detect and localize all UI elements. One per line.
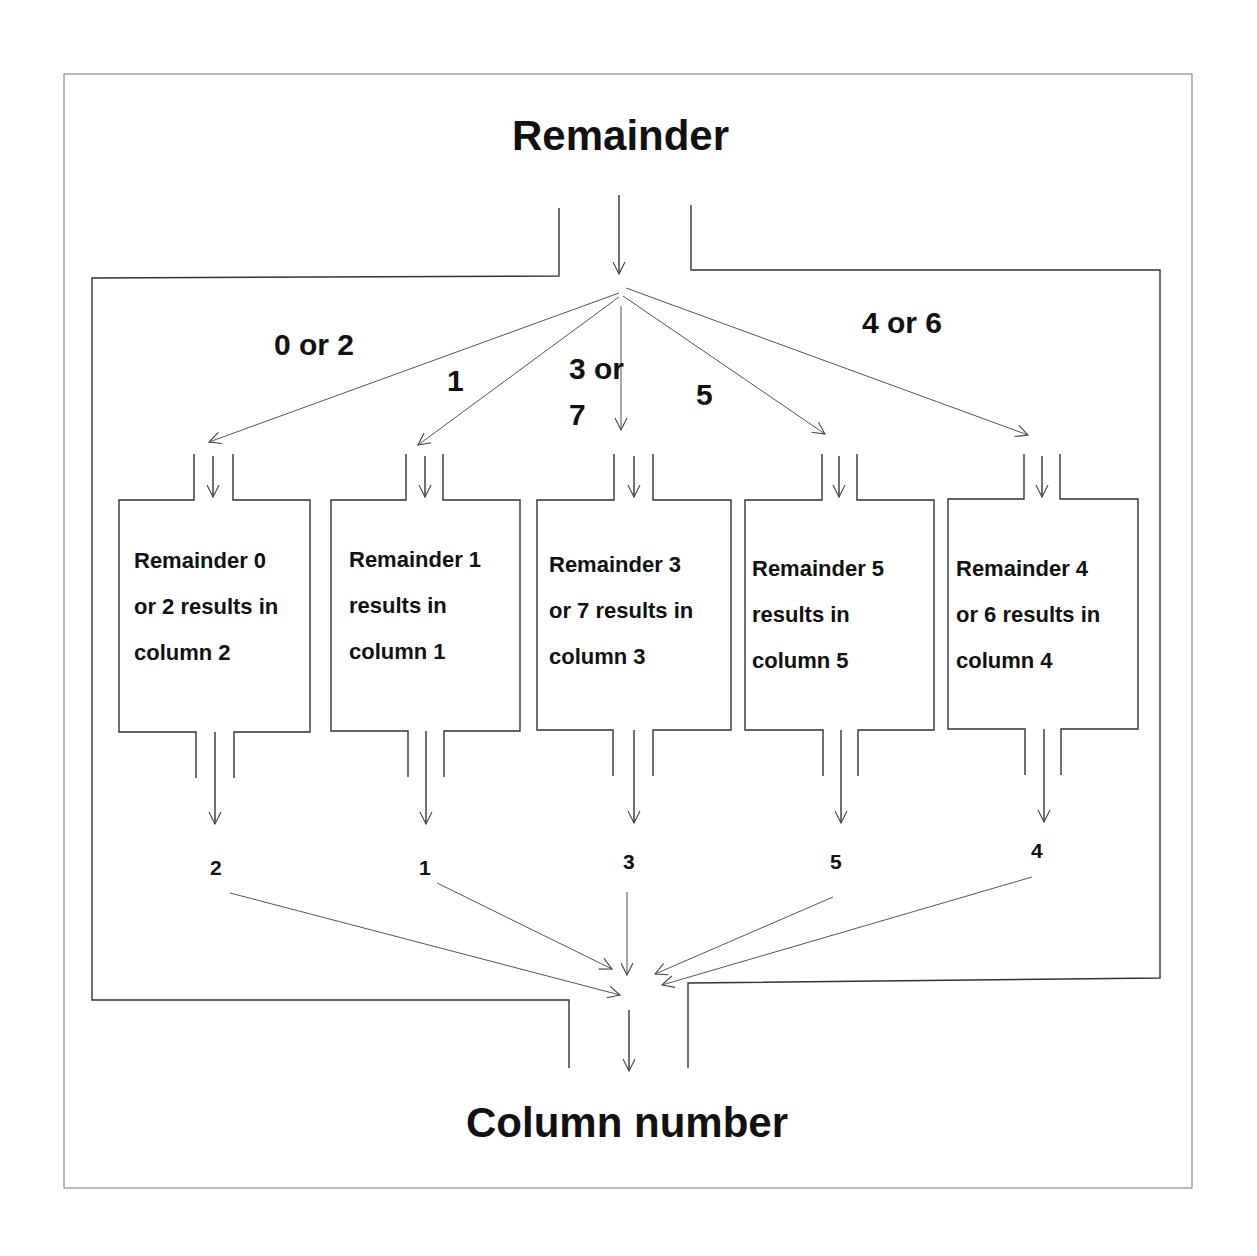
box-remainder-3-or-7: Remainder 3 or 7 results in column 3	[549, 542, 693, 680]
box-line: column 3	[549, 634, 693, 680]
box-line: Remainder 0	[134, 538, 278, 584]
box-line: Remainder 4	[956, 546, 1100, 592]
box-line: or 7 results in	[549, 588, 693, 634]
box-line: column 1	[349, 629, 481, 675]
output-column-1: 1	[419, 856, 431, 880]
branch-label-0-or-2: 0 or 2	[274, 328, 354, 362]
fan-in-arrows	[230, 877, 1032, 995]
input-label: Remainder	[512, 112, 729, 160]
box-line: column 5	[752, 638, 884, 684]
output-label: Column number	[466, 1099, 788, 1147]
output-column-5: 5	[830, 850, 842, 874]
box-line: Remainder 5	[752, 546, 884, 592]
box-line: column 4	[956, 638, 1100, 684]
box-line: results in	[752, 592, 884, 638]
branch-label-3-or-7-line2: 7	[569, 398, 586, 432]
box-remainder-4-or-6: Remainder 4 or 6 results in column 4	[956, 546, 1100, 684]
output-column-4: 4	[1031, 839, 1043, 863]
box-line: or 6 results in	[956, 592, 1100, 638]
box-line: column 2	[134, 630, 278, 676]
box-line: Remainder 1	[349, 537, 481, 583]
branch-label-5: 5	[696, 378, 713, 412]
box-remainder-0-or-2: Remainder 0 or 2 results in column 2	[134, 538, 278, 676]
box-line: or 2 results in	[134, 584, 278, 630]
output-column-3: 3	[623, 850, 635, 874]
branch-label-1: 1	[447, 364, 464, 398]
box-remainder-5: Remainder 5 results in column 5	[752, 546, 884, 684]
output-column-2: 2	[210, 856, 222, 880]
box-line: Remainder 3	[549, 542, 693, 588]
branch-label-4-or-6: 4 or 6	[862, 306, 942, 340]
box-remainder-1: Remainder 1 results in column 1	[349, 537, 481, 675]
branch-label-3-or-7-line1: 3 or	[569, 352, 624, 386]
box-line: results in	[349, 583, 481, 629]
